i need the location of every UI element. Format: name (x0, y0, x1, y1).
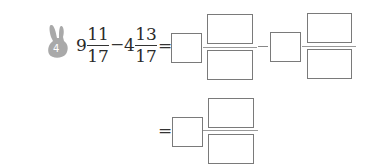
equals-sign-step2: = (158, 122, 172, 139)
problem-number-badge: 4 (46, 23, 70, 59)
problem-number: 4 (53, 43, 59, 54)
answer-box-denominator-2[interactable] (307, 49, 352, 79)
minus-sign-step1 (258, 46, 268, 47)
minus-operator: − (110, 36, 124, 53)
answer-box-numerator-2[interactable] (307, 13, 352, 43)
answer-box-final-numerator[interactable] (208, 98, 254, 128)
term1-whole: 9 (76, 37, 87, 54)
term1-denominator: 17 (87, 48, 109, 65)
term1-numerator: 11 (87, 26, 109, 43)
answer-box-denominator-1[interactable] (207, 50, 253, 80)
answer-box-final-denominator[interactable] (208, 134, 254, 164)
term2-numerator: 13 (135, 26, 157, 43)
fraction-bar-final (203, 130, 258, 131)
answer-box-numerator-1[interactable] (207, 14, 253, 44)
answer-box-final-whole[interactable] (172, 117, 203, 147)
fraction-bar-2 (302, 46, 356, 47)
answer-box-whole-2[interactable] (270, 32, 301, 62)
answer-box-whole-1[interactable] (171, 33, 202, 63)
fraction-bar-1 (203, 47, 257, 48)
term2-denominator: 17 (135, 48, 157, 65)
term2-whole: 4 (124, 37, 135, 54)
